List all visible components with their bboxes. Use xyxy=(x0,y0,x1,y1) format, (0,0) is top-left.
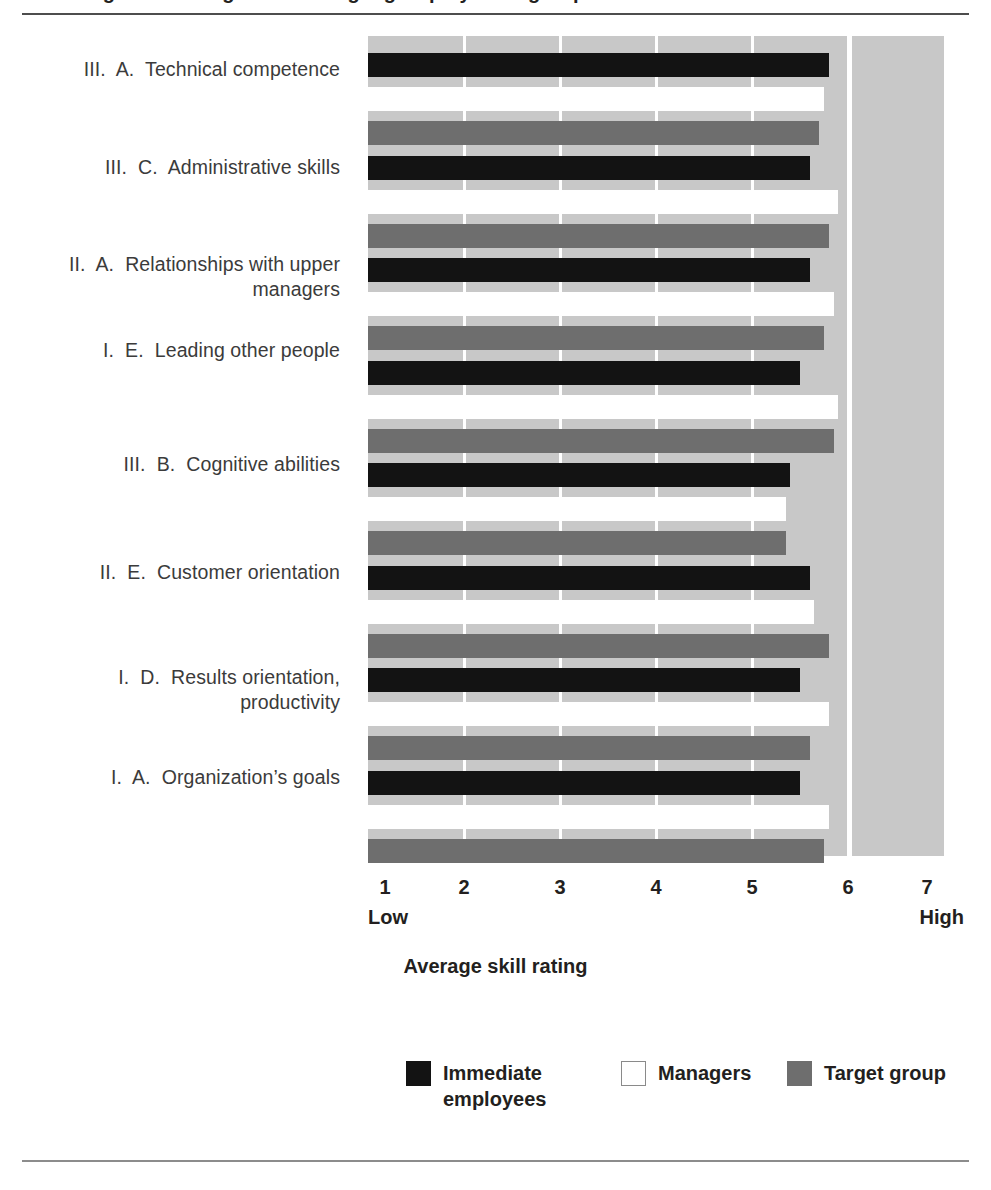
category-label-1-line1: Administrative skills xyxy=(168,156,340,178)
legend-label-managers: Managers xyxy=(658,1060,751,1086)
legend-item-managers[interactable]: Managers xyxy=(621,1060,751,1086)
legend-swatch-managers xyxy=(621,1061,646,1086)
bar-immediate-employees-group-7 xyxy=(368,771,800,795)
bar-managers-group-3 xyxy=(368,395,838,419)
category-label-6: I. D. Results orientation,productivity xyxy=(0,665,340,715)
bar-immediate-employees-group-2 xyxy=(368,258,810,282)
bar-managers-group-4 xyxy=(368,497,786,521)
category-label-7-code: I. A. xyxy=(111,766,162,788)
bar-managers-group-6 xyxy=(368,702,829,726)
category-label-3-line1: Leading other people xyxy=(155,339,340,361)
figure-title-cropped: Average skill ratings for the target gro… xyxy=(0,0,991,14)
bar-target-group-group-4 xyxy=(368,531,786,555)
category-label-4-code: III. B. xyxy=(124,453,187,475)
category-label-6-line2: productivity xyxy=(0,690,340,715)
x-tick-6: 6 xyxy=(828,876,868,899)
x-tick-7: 7 xyxy=(907,876,947,899)
category-label-4-line1: Cognitive abilities xyxy=(186,453,340,475)
x-axis-high-cap: High xyxy=(874,906,964,929)
category-label-2-line2: managers xyxy=(0,277,340,302)
x-axis-low-cap: Low xyxy=(368,906,458,929)
legend-item-immediate[interactable]: Immediate employees xyxy=(406,1060,593,1112)
x-axis-title: Average skill rating xyxy=(0,955,991,978)
category-label-2-code: II. A. xyxy=(69,253,125,275)
bottom-divider xyxy=(22,1160,969,1162)
bar-immediate-employees-group-4 xyxy=(368,463,790,487)
category-label-2: II. A. Relationships with uppermanagers xyxy=(0,252,340,302)
bar-managers-group-2 xyxy=(368,292,834,316)
bar-immediate-employees-group-6 xyxy=(368,668,800,692)
category-label-7-line1: Organization’s goals xyxy=(162,766,340,788)
chart-plot-area xyxy=(368,36,944,856)
legend-swatch-immediate xyxy=(406,1061,431,1086)
category-label-0: III. A. Technical competence xyxy=(0,57,340,82)
category-label-2-line1: Relationships with upper xyxy=(125,253,340,275)
top-divider xyxy=(22,13,969,15)
bar-managers-group-7 xyxy=(368,805,829,829)
x-axis: Low High 1234567 xyxy=(0,876,991,936)
category-label-3-code: I. E. xyxy=(103,339,155,361)
category-label-1-code: III. C. xyxy=(105,156,168,178)
category-label-4: III. B. Cognitive abilities xyxy=(0,452,340,477)
category-label-7: I. A. Organization’s goals xyxy=(0,765,340,790)
x-tick-4: 4 xyxy=(636,876,676,899)
axis-gridline-6 xyxy=(847,36,852,856)
category-label-5-line1: Customer orientation xyxy=(157,561,340,583)
bar-target-group-group-1 xyxy=(368,224,829,248)
bar-target-group-group-5 xyxy=(368,634,829,658)
legend-swatch-target xyxy=(787,1061,812,1086)
category-label-5: II. E. Customer orientation xyxy=(0,560,340,585)
figure-title-text: Average skill ratings for the target gro… xyxy=(47,0,586,4)
bar-immediate-employees-group-1 xyxy=(368,156,810,180)
chart-legend: Immediate employeesManagersTarget group xyxy=(0,1060,991,1130)
category-label-5-code: II. E. xyxy=(100,561,157,583)
bar-managers-group-5 xyxy=(368,600,814,624)
category-label-6-line1: Results orientation, xyxy=(171,666,340,688)
bar-immediate-employees-group-0 xyxy=(368,53,829,77)
legend-item-target[interactable]: Target group xyxy=(787,1060,946,1086)
category-label-1: III. C. Administrative skills xyxy=(0,155,340,180)
bar-target-group-group-2 xyxy=(368,326,824,350)
category-label-column: III. A. Technical competenceIII. C. Admi… xyxy=(0,36,352,856)
legend-label-target: Target group xyxy=(824,1060,946,1086)
category-label-0-line1: Technical competence xyxy=(145,58,340,80)
bar-target-group-group-7 xyxy=(368,839,824,863)
bar-managers-group-1 xyxy=(368,190,838,214)
bar-managers-group-0 xyxy=(368,87,824,111)
bar-immediate-employees-group-3 xyxy=(368,361,800,385)
bar-target-group-group-3 xyxy=(368,429,834,453)
category-label-0-code: III. A. xyxy=(84,58,145,80)
x-tick-3: 3 xyxy=(540,876,580,899)
category-label-6-code: I. D. xyxy=(118,666,171,688)
x-tick-1: 1 xyxy=(365,876,405,899)
legend-label-immediate: Immediate employees xyxy=(443,1060,593,1112)
category-label-3: I. E. Leading other people xyxy=(0,338,340,363)
x-tick-5: 5 xyxy=(732,876,772,899)
bar-immediate-employees-group-5 xyxy=(368,566,810,590)
x-tick-2: 2 xyxy=(444,876,484,899)
bar-target-group-group-0 xyxy=(368,121,819,145)
bar-target-group-group-6 xyxy=(368,736,810,760)
